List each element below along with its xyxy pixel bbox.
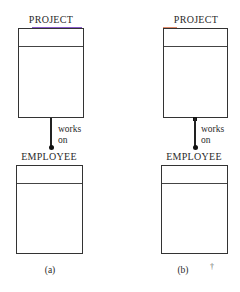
many-dot-icon <box>49 145 54 150</box>
entity-box-employee-a <box>16 165 83 254</box>
entity-label-project-b: PROJECT <box>156 14 236 25</box>
relationship-label-line2: on <box>201 135 224 146</box>
relationship-label-a: works on <box>58 124 81 146</box>
relationship-label-b: works on <box>201 124 224 146</box>
entity-label-project-a: PROJECT <box>11 14 91 25</box>
entity-label-employee-b: EMPLOYEE <box>154 151 234 162</box>
dagger-mark: † <box>210 262 214 271</box>
relationship-label-line1: works <box>201 124 224 135</box>
entity-label-employee-a: EMPLOYEE <box>9 151 89 162</box>
caption-b: (b) <box>168 265 198 275</box>
relationship-label-line2: on <box>58 135 81 146</box>
relationship-label-line1: works <box>58 124 81 135</box>
entity-header-divider <box>164 46 227 47</box>
entity-box-project-a <box>18 28 84 118</box>
entity-box-project-b <box>163 28 228 118</box>
caption-a: (a) <box>35 265 65 275</box>
entity-header-divider <box>19 46 83 47</box>
relationship-line-a <box>50 118 52 147</box>
entity-box-employee-b <box>161 165 228 254</box>
relationship-line-b <box>194 118 196 147</box>
many-dot-icon <box>193 145 198 150</box>
entity-header-divider <box>17 183 82 184</box>
entity-header-divider <box>162 183 227 184</box>
